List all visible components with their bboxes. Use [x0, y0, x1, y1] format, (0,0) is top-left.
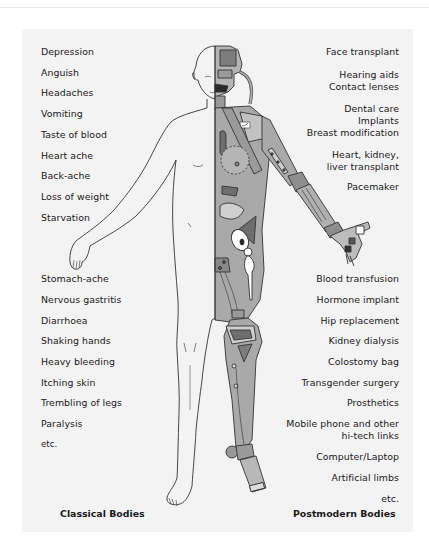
intervention-label: Kidney dialysis	[328, 335, 399, 347]
intervention-label: Artificial limbs	[331, 472, 399, 484]
intervention-label: Heart, kidney, liver transplant	[327, 149, 399, 173]
symptom-label: Nervous gastritis	[41, 294, 121, 306]
intervention-label: etc.	[381, 493, 399, 505]
intervention-label: Blood transfusion	[316, 273, 399, 285]
symptom-label: Depression	[41, 46, 94, 58]
symptom-label: Vomiting	[41, 108, 83, 120]
symptom-label: Taste of blood	[41, 129, 107, 141]
symptom-label: Diarrhoea	[41, 315, 88, 327]
symptom-label: etc.	[41, 438, 57, 450]
intervention-label: Dental care Implants Breast modification	[307, 103, 399, 139]
symptom-label: Paralysis	[41, 418, 83, 430]
symptom-label: Itching skin	[41, 377, 95, 389]
intervention-label: Mobile phone and other hi-tech links	[286, 418, 399, 442]
symptom-label: Headaches	[41, 87, 93, 99]
symptom-label: Back-ache	[41, 170, 90, 182]
symptom-label: Starvation	[41, 212, 90, 224]
intervention-label: Hearing aids Contact lenses	[329, 69, 399, 93]
symptom-label: Loss of weight	[41, 191, 109, 203]
symptom-label: Heavy bleeding	[41, 356, 115, 368]
intervention-label: Hip replacement	[321, 315, 400, 327]
intervention-label: Computer/Laptop	[316, 451, 399, 463]
symptom-label: Shaking hands	[41, 335, 111, 347]
symptom-label: Heart ache	[41, 150, 93, 162]
intervention-label: Colostomy bag	[328, 356, 399, 368]
intervention-label: Hormone implant	[317, 294, 399, 306]
intervention-label: Face transplant	[326, 46, 399, 58]
intervention-label: Transgender surgery	[301, 377, 399, 389]
postmodern-caption: Postmodern Bodies	[293, 508, 396, 519]
classical-caption: Classical Bodies	[60, 508, 145, 519]
symptom-label: Anguish	[41, 67, 79, 79]
intervention-label: Prosthetics	[347, 397, 399, 409]
symptom-label: Stomach-ache	[41, 273, 109, 285]
symptom-label: Trembling of legs	[41, 397, 122, 409]
intervention-label: Pacemaker	[347, 181, 399, 193]
